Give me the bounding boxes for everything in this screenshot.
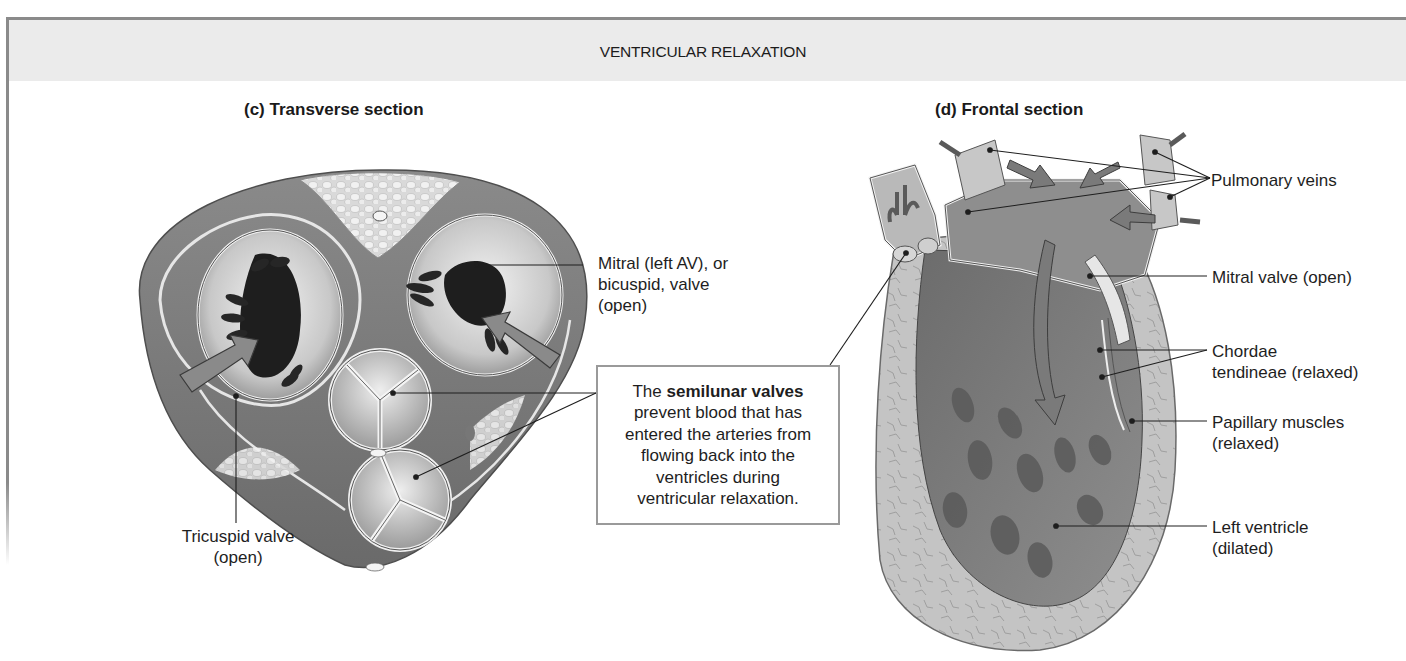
label-tricuspid-valve: Tricuspid valve (open) (166, 526, 310, 568)
label-line: Papillary muscles (1212, 412, 1344, 433)
callout-line-6: ventricular relaxation. (625, 488, 811, 510)
label-line: Left ventricle (1212, 517, 1308, 538)
label-line: Tricuspid valve (166, 526, 310, 547)
label-line: (relaxed) (1212, 433, 1344, 454)
callout-line-1: The semilunar valves (625, 381, 811, 403)
label-line: Mitral (left AV), or (598, 253, 728, 274)
label-line: Chordae (1212, 341, 1358, 362)
callout-prefix: The (632, 382, 661, 401)
label-line: tendineae (relaxed) (1212, 362, 1358, 383)
label-pulmonary-veins: Pulmonary veins (1211, 170, 1337, 191)
label-papillary-muscles: Papillary muscles (relaxed) (1212, 412, 1344, 454)
callout-line-2: prevent blood that has (625, 402, 811, 424)
transverse-section-illustration (139, 170, 596, 571)
label-line: (open) (166, 547, 310, 568)
label-mitral-bicuspid-valve: Mitral (left AV), or bicuspid, valve (op… (598, 253, 728, 316)
label-line: (open) (598, 295, 728, 316)
label-line: bicuspid, valve (598, 274, 728, 295)
frontal-section-illustration (830, 134, 1210, 650)
label-chordae-tendineae: Chordae tendineae (relaxed) (1212, 341, 1358, 383)
label-mitral-valve: Mitral valve (open) (1212, 267, 1352, 288)
callout-bold-term: semilunar valves (667, 382, 804, 401)
callout-line-3: entered the arteries from (625, 424, 811, 446)
semilunar-valves-callout: The semilunar valves prevent blood that … (596, 365, 840, 525)
callout-line-5: ventricles during (625, 467, 811, 489)
label-left-ventricle: Left ventricle (dilated) (1212, 517, 1308, 559)
label-line: (dilated) (1212, 538, 1308, 559)
callout-line-4: flowing back into the (625, 445, 811, 467)
